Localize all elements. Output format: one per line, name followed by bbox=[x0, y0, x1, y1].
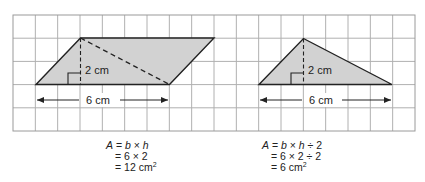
formula-line-3: = 12 cm2 bbox=[106, 162, 157, 173]
parallelogram-shape bbox=[36, 38, 214, 85]
triangle-base-label: 6 cm bbox=[309, 94, 333, 106]
area-diagram: 2 cm 6 cm 2 cm 6 cm bbox=[0, 0, 425, 182]
parallelogram-base-label: 6 cm bbox=[86, 94, 110, 106]
formula-line-3: = 6 cm2 bbox=[262, 162, 322, 173]
result-value: = 6 cm bbox=[271, 161, 303, 173]
parallelogram-area-formula: A = b × h = 6 × 2 = 12 cm2 bbox=[106, 140, 157, 173]
triangle-height-label: 2 cm bbox=[308, 64, 332, 76]
area-symbol: A bbox=[106, 139, 113, 151]
unit-exponent: 2 bbox=[303, 161, 307, 168]
triangle-area-formula: A = b × h ÷ 2 = 6 × 2 ÷ 2 = 6 cm2 bbox=[262, 140, 322, 173]
result-value: = 12 cm bbox=[115, 161, 153, 173]
unit-exponent: 2 bbox=[153, 161, 157, 168]
parallelogram-height-label: 2 cm bbox=[85, 64, 109, 76]
area-symbol: A bbox=[262, 139, 269, 151]
